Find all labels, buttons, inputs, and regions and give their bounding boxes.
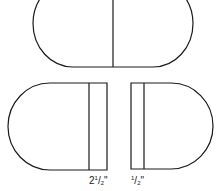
left-half-outline [8, 83, 107, 170]
label-unit: " [104, 175, 108, 186]
label-numerator: 1 [131, 175, 134, 181]
dimension-label-2-1-2-inch: 21/2" [89, 175, 108, 186]
right-half-outline [131, 83, 213, 169]
label-numerator: 1 [95, 175, 98, 181]
table-diagram [0, 0, 222, 191]
dimension-label-1-2-inch: 1/2" [131, 175, 144, 186]
label-unit: " [140, 175, 144, 186]
